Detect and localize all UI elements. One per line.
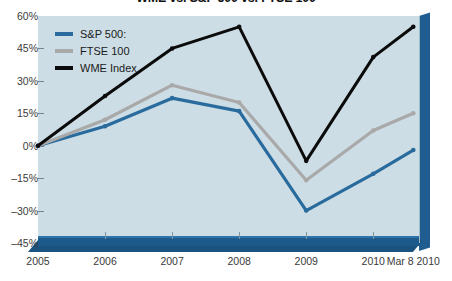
x-axis-tick — [306, 232, 307, 239]
x-axis-tick — [239, 232, 240, 239]
legend-color-swatch — [55, 66, 73, 70]
chart-legend: S&P 500:FTSE 100WME Index — [55, 26, 137, 77]
y-axis-tick — [38, 211, 44, 212]
chart-figure: WME vs. S&P 500 vs. FTSE 100 60%45%30%15… — [0, 0, 452, 281]
plot-base-bar — [38, 237, 419, 246]
x-axis-tick — [373, 232, 374, 239]
x-axis-label: 2010 — [362, 255, 385, 267]
legend-item: FTSE 100 — [55, 43, 137, 58]
plot-3d-right-edge — [419, 12, 430, 251]
y-axis: 60%45%30%15%0%–15%–30%–45% — [0, 0, 38, 281]
x-axis-label: 2005 — [26, 255, 49, 267]
legend-color-swatch — [55, 49, 73, 53]
y-axis-label: 0% — [4, 140, 38, 152]
legend-item: WME Index — [55, 60, 137, 75]
legend-item: S&P 500: — [55, 26, 137, 41]
x-axis-label: 2006 — [93, 255, 116, 267]
legend-label: WME Index — [80, 62, 137, 74]
y-axis-label: 60% — [4, 10, 38, 22]
y-axis-label: 30% — [4, 75, 38, 87]
chart-title: WME vs. S&P 500 vs. FTSE 100 — [0, 0, 452, 5]
x-axis-label: 2007 — [160, 255, 183, 267]
y-axis-tick — [38, 178, 44, 179]
y-axis-tick — [38, 113, 44, 114]
y-axis-label: 15% — [4, 107, 38, 119]
legend-label: S&P 500: — [80, 28, 126, 40]
y-axis-label: –30% — [4, 205, 38, 217]
y-axis-tick — [38, 81, 44, 82]
x-axis-tick — [105, 232, 106, 239]
y-axis-label: –15% — [4, 172, 38, 184]
y-axis-label: 45% — [4, 42, 38, 54]
y-axis-label: –45% — [4, 237, 38, 249]
y-axis-tick — [38, 146, 44, 147]
legend-label: FTSE 100 — [80, 45, 130, 57]
x-axis-label: 2009 — [295, 255, 318, 267]
x-axis-label: 2008 — [227, 255, 250, 267]
y-axis-tick — [38, 48, 44, 49]
x-axis-tick — [172, 232, 173, 239]
legend-color-swatch — [55, 32, 73, 36]
plot-base-bar-highlight — [38, 236, 419, 238]
x-axis-label: Mar 8 2010 — [387, 255, 440, 267]
